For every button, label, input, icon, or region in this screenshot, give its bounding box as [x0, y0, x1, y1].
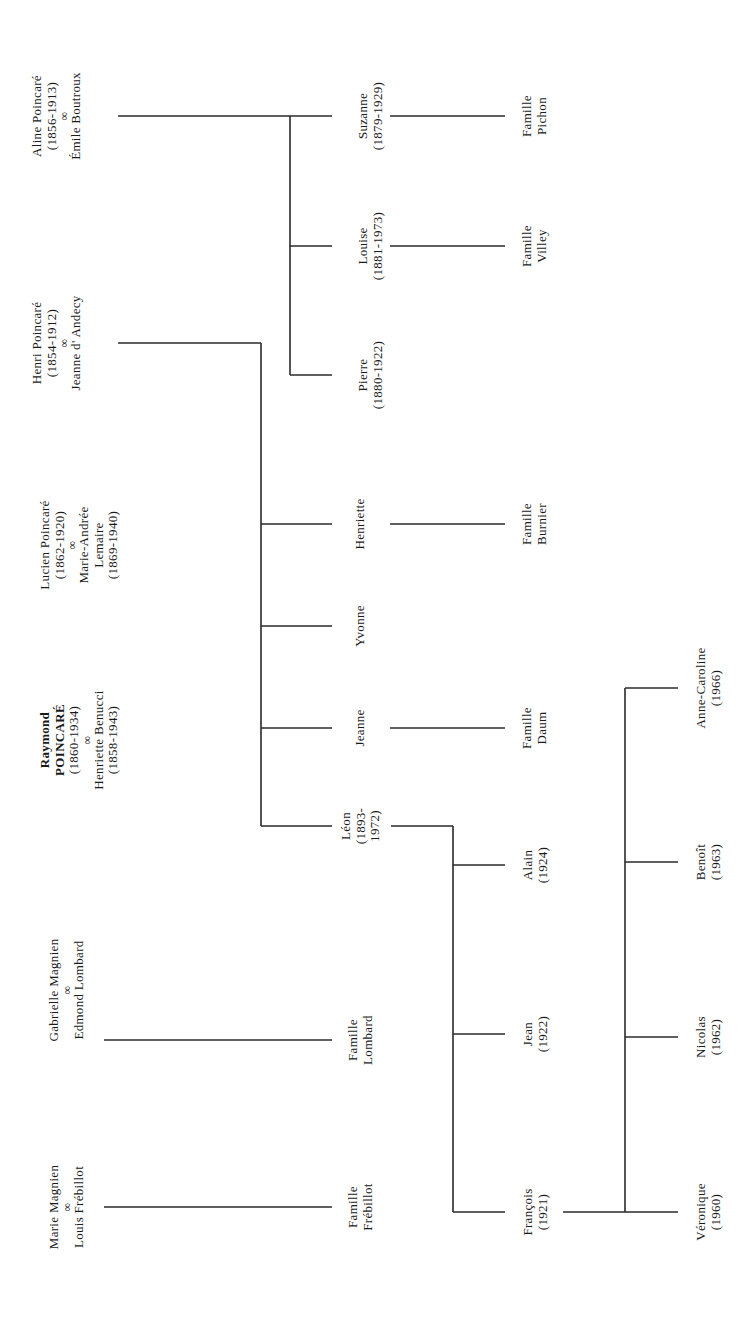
person-label: Pierre(1880-1922) [356, 341, 385, 409]
label-line: Benoît [694, 844, 709, 880]
label-line: 1972) [368, 808, 383, 844]
label-line: Marie-Andrée [77, 500, 92, 589]
label-line: Jean [521, 1016, 536, 1052]
label-line: Pierre [356, 341, 371, 409]
person-label: FamilleVilley [520, 225, 549, 267]
label-line: (1960) [708, 1183, 723, 1241]
person-label: FamilleLombard [346, 1015, 375, 1065]
person-label: Louise(1881-1973) [356, 212, 385, 280]
person-label: FamillePichon [520, 95, 549, 137]
person-label: Alain(1924) [521, 847, 550, 883]
label-line: Daum [534, 707, 549, 749]
label-line: Louis Frébillot [71, 1165, 86, 1249]
person-label: Gabrielle Magnien∞Edmond Lombard [47, 939, 86, 1042]
person-label: RaymondPOINCARÉ(1860-1934)∞Henriette Ben… [38, 690, 121, 789]
label-line: (1921) [535, 1188, 550, 1235]
marriage-symbol-icon: ∞ [61, 939, 71, 1042]
label-line: POINCARÉ [52, 690, 67, 789]
label-line: Lombard [360, 1015, 375, 1065]
label-line: (1963) [708, 844, 723, 880]
label-line: Villey [534, 225, 549, 267]
label-line: Nicolas [694, 1016, 709, 1058]
person-label: Benoît(1963) [694, 844, 723, 880]
label-line: Aline Poincaré [30, 72, 45, 160]
person-label: Véronique(1960) [694, 1183, 723, 1241]
label-line: Frébillot [360, 1183, 375, 1230]
label-line: (1880-1922) [370, 341, 385, 409]
person-label: François(1921) [521, 1188, 550, 1235]
person-label: Henriette [353, 498, 368, 549]
person-label: Jeanne [353, 709, 368, 746]
person-label: FamilleFrébillot [346, 1183, 375, 1230]
label-line: Lemaire [91, 500, 106, 589]
label-line: Yvonne [353, 605, 368, 647]
label-line: Véronique [694, 1183, 709, 1241]
label-line: Henri Poincaré [30, 295, 45, 390]
label-line: Raymond [38, 690, 53, 789]
label-line: (1962) [708, 1016, 723, 1058]
person-label: Suzanne(1879-1929) [356, 82, 385, 150]
label-line: Suzanne [356, 82, 371, 150]
person-label: Aline Poincaré(1856-1913)∞Émile Boutroux [30, 72, 84, 160]
family-tree-diagram: Aline Poincaré(1856-1913)∞Émile Boutroux… [0, 0, 754, 1327]
marriage-symbol-icon: ∞ [81, 690, 91, 789]
label-line: Lucien Poincaré [38, 500, 53, 589]
label-line: Famille [520, 95, 535, 137]
label-line: (1966) [708, 647, 723, 728]
label-line: Léon [339, 808, 354, 844]
marriage-symbol-icon: ∞ [61, 1165, 71, 1249]
label-line: (1922) [535, 1016, 550, 1052]
label-line: Louise [356, 212, 371, 280]
person-label: Anne-Caroline(1966) [694, 647, 723, 728]
label-line: François [521, 1188, 536, 1235]
label-line: Jeanne [353, 709, 368, 746]
label-line: (1881-1973) [370, 212, 385, 280]
label-line: Jeanne d' Andecy [69, 295, 84, 390]
tree-connectors [0, 0, 754, 1327]
label-line: Pichon [534, 95, 549, 137]
label-line: (1858-1943) [106, 690, 121, 789]
label-line: Henriette Benucci [91, 690, 106, 789]
label-line: (1879-1929) [370, 82, 385, 150]
label-line: Famille [520, 225, 535, 267]
person-label: Jean(1922) [521, 1016, 550, 1052]
label-line: Anne-Caroline [694, 647, 709, 728]
label-line: Famille [346, 1015, 361, 1065]
label-line: (1869-1940) [106, 500, 121, 589]
person-label: Yvonne [353, 605, 368, 647]
person-label: Henri Poincaré(1854-1912)∞Jeanne d' Ande… [30, 295, 84, 390]
label-line: (1893- [354, 808, 369, 844]
label-line: Alain [521, 847, 536, 883]
label-line: (1924) [535, 847, 550, 883]
label-line: Henriette [353, 498, 368, 549]
person-label: Lucien Poincaré(1862-1920)∞Marie-AndréeL… [38, 500, 121, 589]
person-label: FamilleBurnier [520, 503, 549, 545]
label-line: Famille [520, 707, 535, 749]
label-line: Edmond Lombard [71, 939, 86, 1042]
person-label: Léon(1893-1972) [339, 808, 383, 844]
label-line: Émile Boutroux [69, 72, 84, 160]
label-line: Burnier [534, 503, 549, 545]
person-label: Nicolas(1962) [694, 1016, 723, 1058]
label-line: Famille [346, 1183, 361, 1230]
person-label: Marie Magnien∞Louis Frébillot [47, 1165, 86, 1249]
label-line: Famille [520, 503, 535, 545]
person-label: FamilleDaum [520, 707, 549, 749]
